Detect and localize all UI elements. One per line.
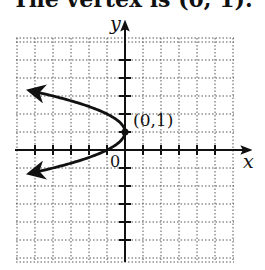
y-axis-label: y — [109, 12, 121, 34]
vertex-point — [122, 129, 129, 136]
origin-label: 0 — [110, 152, 120, 171]
axes — [15, 22, 250, 262]
coordinate-plane: y x 0 (0,1) — [0, 0, 265, 270]
vertex-label: (0,1) — [133, 110, 173, 130]
x-axis-label: x — [243, 150, 254, 172]
